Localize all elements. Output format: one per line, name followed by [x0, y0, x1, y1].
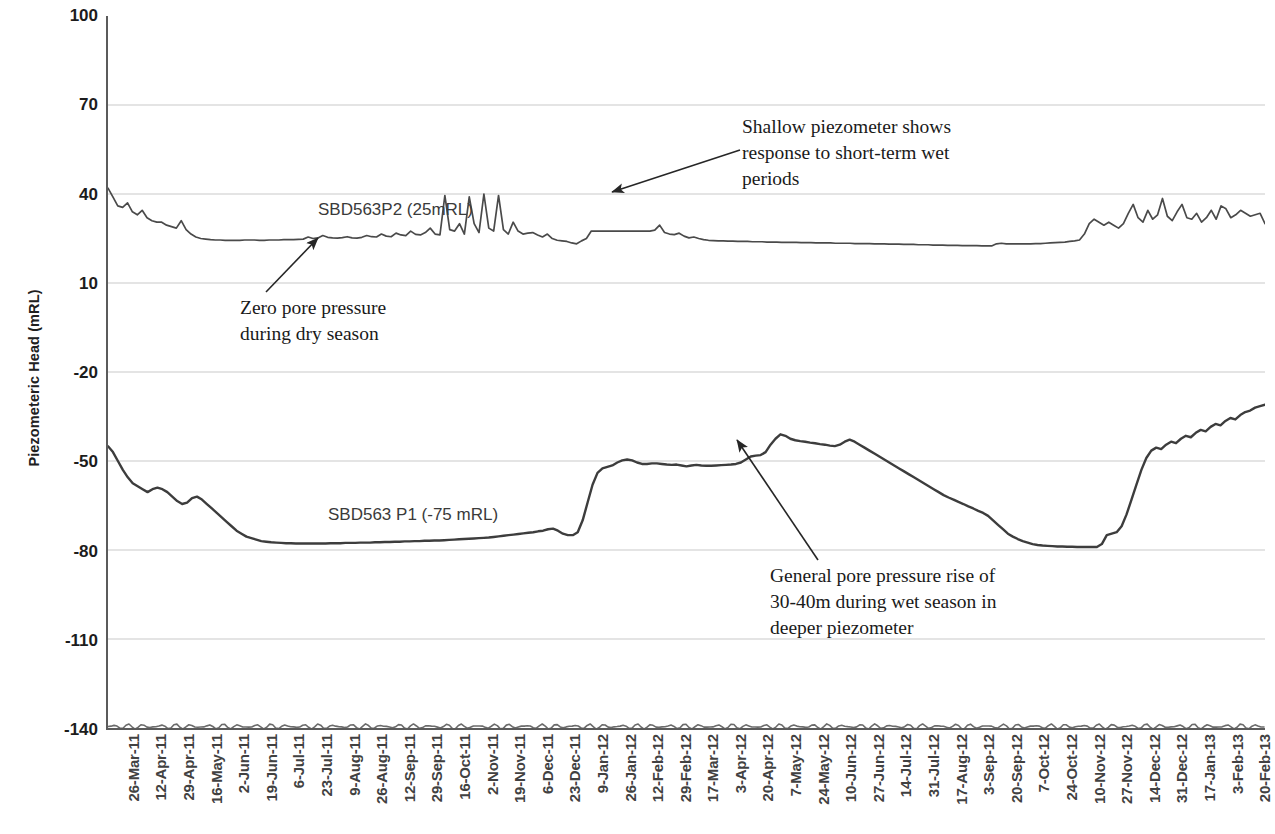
x-tick-label: 12-Sep-11	[401, 734, 418, 802]
x-tick-label: 19-Jun-11	[263, 734, 280, 801]
x-tick-label: 9-Jan-12	[594, 734, 611, 793]
y-tick-label: -140	[26, 720, 98, 740]
x-tick-label: 23-Jul-11	[318, 734, 335, 796]
x-tick-label: 29-Feb-12	[677, 734, 694, 802]
x-tick-label: 29-Sep-11	[428, 734, 445, 802]
annotation-shallow-response: Shallow piezometer shows response to sho…	[742, 114, 1042, 192]
x-tick-label: 27-Jun-12	[870, 734, 887, 802]
x-tick-label: 19-Nov-11	[511, 734, 528, 803]
x-tick-label: 12-Feb-12	[649, 734, 666, 802]
y-tick-label: 70	[26, 95, 98, 115]
x-tick-label: 6-Dec-11	[539, 734, 556, 794]
y-tick-label: -110	[26, 631, 98, 651]
x-tick-label: 26-Jan-12	[622, 734, 639, 801]
series-label-sbd563p2: SBD563P2 (25mRL)	[318, 200, 473, 220]
x-tick-label: 10-Nov-12	[1091, 734, 1108, 804]
x-tick-label: 20-Feb-13	[1256, 734, 1273, 802]
x-tick-label: 2-Jun-11	[235, 734, 252, 793]
y-tick-label: -80	[26, 542, 98, 562]
y-tick-label: 10	[26, 274, 98, 294]
series-paths	[108, 188, 1265, 728]
x-tick-label: 2-Nov-11	[484, 734, 501, 795]
x-tick-label: 24-Oct-12	[1063, 734, 1080, 801]
y-tick-label: 100	[26, 6, 98, 26]
x-tick-label: 26-Aug-11	[373, 734, 390, 804]
y-tick-label: -20	[26, 363, 98, 383]
x-tick-label: 16-May-11	[208, 734, 225, 804]
series-line-baseline-noise	[108, 724, 1264, 728]
x-tick-label: 17-Jan-13	[1201, 734, 1218, 801]
annotation-zero-pore-pressure: Zero pore pressure during dry season	[240, 295, 540, 347]
x-tick-label: 12-Apr-11	[152, 734, 169, 801]
x-tick-label: 6-Jul-11	[290, 734, 307, 788]
x-tick-label: 16-Oct-11	[456, 734, 473, 800]
x-tick-label: 7-May-12	[787, 734, 804, 797]
x-tick-label: 29-Apr-11	[180, 734, 197, 801]
x-tick-label: 7-Oct-12	[1035, 734, 1052, 792]
x-axis-tick-labels: 26-Mar-1112-Apr-1129-Apr-1116-May-112-Ju…	[106, 734, 1265, 834]
x-tick-label: 31-Jul-12	[925, 734, 942, 797]
series-line-SBD563 P1 (-75 mRL)	[108, 405, 1265, 547]
x-tick-label: 10-Jun-12	[842, 734, 859, 802]
piezometric-head-chart: Piezometeric Head (mRL) 100704010-20-50-…	[0, 0, 1275, 834]
x-tick-label: 31-Dec-12	[1173, 734, 1190, 803]
x-tick-label: 3-Apr-12	[732, 734, 749, 793]
x-tick-label: 23-Dec-11	[566, 734, 583, 802]
y-axis-tick-labels: 100704010-20-50-80-110-140	[0, 0, 98, 834]
x-tick-label: 20-Apr-12	[759, 734, 776, 801]
x-tick-label: 17-Mar-12	[704, 734, 721, 802]
x-tick-label: 20-Sep-12	[1008, 734, 1025, 803]
y-tick-label: -50	[26, 452, 98, 472]
x-tick-label: 14-Jul-12	[897, 734, 914, 797]
x-tick-label: 24-May-12	[815, 734, 832, 805]
annotation-general-pore-pressure-rise: General pore pressure rise of 30-40m dur…	[770, 563, 1100, 641]
x-tick-label: 27-Nov-12	[1118, 734, 1135, 804]
x-tick-label: 14-Dec-12	[1146, 734, 1163, 803]
x-tick-label: 9-Aug-11	[346, 734, 363, 796]
y-tick-label: 40	[26, 185, 98, 205]
x-tick-label: 17-Aug-12	[953, 734, 970, 805]
series-line-SBD563P2 (25mRL)	[108, 188, 1265, 246]
series-label-sbd563p1: SBD563 P1 (-75 mRL)	[328, 505, 498, 525]
x-tick-label: 26-Mar-11	[125, 734, 142, 801]
x-tick-label: 3-Sep-12	[980, 734, 997, 795]
gridlines	[108, 105, 1265, 639]
x-tick-label: 3-Feb-13	[1229, 734, 1246, 794]
